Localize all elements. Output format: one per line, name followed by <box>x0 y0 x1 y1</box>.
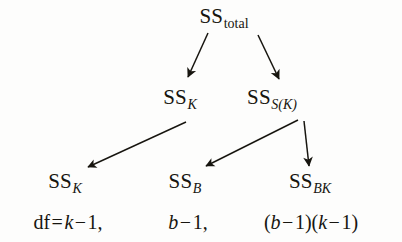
df-b-comma: , <box>203 211 208 233</box>
ss-s-k-subscript: S(K) <box>271 96 297 111</box>
node-ss-b: SSB <box>169 171 202 196</box>
df-cell-k: df=k−1, <box>33 212 102 232</box>
df-bk-minus-1: − <box>281 211 295 233</box>
ss-s-k-base: SS <box>247 85 271 109</box>
ss-b-subscript: B <box>192 180 201 195</box>
ss-k-mid-base: SS <box>163 85 187 109</box>
df-cell-b: b−1, <box>168 212 207 232</box>
ss-bk-base: SS <box>289 169 313 193</box>
arrow-ssk-to-ssk <box>88 122 186 167</box>
df-k-comma: , <box>98 211 103 233</box>
ss-k-bottom-base: SS <box>48 169 72 193</box>
df-b-symbol: b <box>168 211 178 233</box>
df-bk-rparen-2: ) <box>351 211 358 233</box>
df-bk-b-symbol: b <box>271 211 281 233</box>
arrow-sssk-to-ssb <box>206 120 298 166</box>
node-ss-s-k: SSS(K) <box>247 87 297 112</box>
ss-k-bottom-subscript: K <box>72 180 82 195</box>
ss-total-subscript: total <box>223 15 248 30</box>
node-ss-k-mid: SSK <box>163 87 197 112</box>
arrow-sssk-to-ssbk <box>304 121 309 166</box>
df-k-minus: − <box>73 211 87 233</box>
df-b-one: 1 <box>193 211 203 233</box>
df-b-minus: − <box>178 211 192 233</box>
degrees-of-freedom-row: df=k−1, b−1, (b−1)(k−1) <box>0 211 402 241</box>
df-k-symbol: k <box>64 211 73 233</box>
ss-k-mid-subscript: K <box>187 96 197 111</box>
anova-partition-diagram: SStotal SSK SSS(K) SSK SSB SSBK df=k−1, … <box>0 0 402 242</box>
ss-total-base: SS <box>199 4 223 28</box>
ss-b-base: SS <box>169 169 193 193</box>
df-bk-lparen-1: ( <box>264 211 271 233</box>
df-bk-k-symbol: k <box>318 211 327 233</box>
df-label: df <box>33 211 50 233</box>
arrow-total-to-ssk <box>188 33 208 77</box>
df-k-one: 1 <box>88 211 98 233</box>
ss-bk-subscript: BK <box>313 180 331 195</box>
df-equals: = <box>50 211 64 233</box>
df-bk-one-2: 1 <box>341 211 351 233</box>
arrow-total-to-sssk <box>258 35 279 79</box>
df-bk-one-1: 1 <box>295 211 305 233</box>
node-ss-total: SStotal <box>199 6 248 31</box>
arrow-layer <box>0 0 402 242</box>
node-ss-bk: SSBK <box>289 171 331 196</box>
node-ss-k-bottom: SSK <box>48 171 82 196</box>
df-cell-bk: (b−1)(k−1) <box>264 212 358 232</box>
df-bk-minus-2: − <box>327 211 341 233</box>
df-bk-rparen-1: ) <box>305 211 312 233</box>
